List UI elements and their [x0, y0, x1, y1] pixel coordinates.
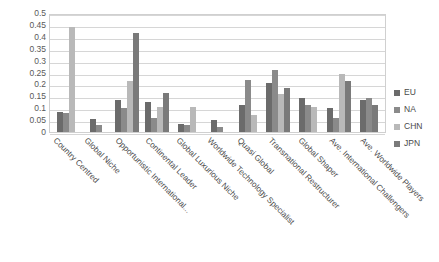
bar-group [81, 15, 111, 132]
bar-group [112, 15, 142, 132]
legend-label: EU [404, 88, 416, 97]
legend-label: CHN [404, 122, 422, 131]
bar-group [202, 15, 232, 132]
legend-swatch-icon [394, 124, 400, 130]
y-tick-label: 0.5 [34, 9, 46, 18]
x-tick-label: Continental Leader [144, 136, 199, 191]
y-tick-label: 0 [41, 128, 46, 137]
bar [217, 127, 223, 132]
y-tick-label: 0.25 [29, 68, 46, 77]
y-tick-label: 0.3 [34, 56, 46, 65]
bar-group [354, 15, 384, 132]
y-tick-label: 0.4 [34, 32, 46, 41]
bar [284, 88, 290, 132]
y-tick-label: 0.45 [29, 20, 46, 29]
x-axis: Country CentredGlobal NicheOpportunistic… [49, 133, 386, 259]
bar-group [323, 15, 353, 132]
legend-label: JPN [404, 139, 420, 148]
y-tick-label: 0.1 [34, 104, 46, 113]
y-tick-label: 0.2 [34, 80, 46, 89]
bar-group [263, 15, 293, 132]
bar [190, 107, 196, 132]
legend-item-jpn[interactable]: JPN [394, 135, 438, 152]
legend-swatch-icon [394, 141, 400, 147]
legend-item-eu[interactable]: EU [394, 84, 438, 101]
bar [133, 33, 139, 132]
legend-label: NA [404, 105, 416, 114]
bar [163, 93, 169, 132]
bars-layer [50, 15, 385, 132]
bar-group [142, 15, 172, 132]
bar-group [293, 15, 323, 132]
y-tick-label: 0.35 [29, 44, 46, 53]
plot-area [49, 14, 386, 133]
bar [251, 115, 257, 132]
bar-group [233, 15, 263, 132]
bar [96, 125, 102, 132]
legend-item-na[interactable]: NA [394, 101, 438, 118]
bar [372, 105, 378, 132]
y-tick-label: 0.05 [29, 116, 46, 125]
legend-swatch-icon [394, 107, 400, 113]
bar [311, 107, 317, 132]
bar-group [51, 15, 81, 132]
legend-item-chn[interactable]: CHN [394, 118, 438, 135]
legend-swatch-icon [394, 90, 400, 96]
y-tick-label: 0.15 [29, 92, 46, 101]
bar-group [172, 15, 202, 132]
bar [345, 81, 351, 132]
bar [69, 27, 75, 132]
y-axis: 0.50.450.40.350.30.250.20.150.10.050 [16, 12, 46, 132]
chart-legend: EUNACHNJPN [394, 84, 438, 152]
bar-chart: 0.50.450.40.350.30.250.20.150.10.050 Cou… [0, 0, 439, 262]
x-tick-label: Global Luxurious Niche [174, 136, 240, 202]
